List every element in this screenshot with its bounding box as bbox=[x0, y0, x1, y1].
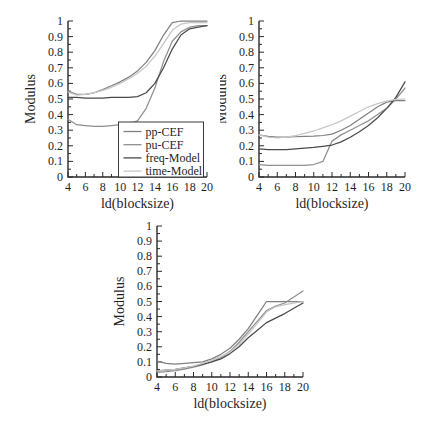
y-axis-label: Modulus bbox=[220, 74, 229, 124]
y-tick-label: 0 bbox=[57, 170, 63, 184]
x-tick-label: 20 bbox=[201, 180, 213, 194]
x-tick-label: 18 bbox=[279, 380, 291, 394]
y-ticks: 00.10.20.30.40.50.60.70.80.91 bbox=[239, 14, 264, 184]
y-axis-label: Modulus bbox=[112, 277, 127, 327]
y-tick-label: 1 bbox=[57, 14, 63, 28]
x-tick-label: 4 bbox=[65, 180, 71, 194]
x-tick-label: 12 bbox=[132, 180, 144, 194]
y-tick-label: 0.2 bbox=[137, 340, 152, 354]
x-tick-label: 12 bbox=[224, 380, 236, 394]
y-tick-label: 0.6 bbox=[137, 279, 152, 293]
y-tick-label: 0 bbox=[146, 370, 152, 384]
x-axis-label: ld(blocksize) bbox=[193, 396, 266, 412]
series-time-Model bbox=[157, 302, 303, 371]
x-tick-label: 14 bbox=[149, 180, 161, 194]
legend-label-pu-CEF: pu-CEF bbox=[146, 138, 184, 152]
y-tick-label: 0.9 bbox=[239, 30, 254, 44]
series-pu-CEF bbox=[259, 88, 405, 165]
y-tick-label: 0.9 bbox=[48, 30, 63, 44]
legend-label-time-Model: time-Model bbox=[146, 164, 203, 178]
x-tick-label: 14 bbox=[242, 380, 254, 394]
y-tick-label: 0.1 bbox=[137, 355, 152, 369]
y-tick-label: 0 bbox=[248, 170, 254, 184]
legend-label-pp-CEF: pp-CEF bbox=[146, 125, 184, 139]
y-tick-label: 0.2 bbox=[239, 139, 254, 153]
y-ticks: 00.10.20.30.40.50.60.70.80.91 bbox=[137, 219, 162, 384]
y-tick-label: 0.7 bbox=[48, 61, 63, 75]
y-tick-label: 1 bbox=[248, 14, 254, 28]
series-freq-Model bbox=[68, 26, 207, 99]
x-tick-label: 18 bbox=[184, 180, 196, 194]
x-tick-label: 8 bbox=[293, 180, 299, 194]
y-tick-label: 0.4 bbox=[137, 310, 152, 324]
y-tick-label: 0.1 bbox=[239, 154, 254, 168]
x-tick-label: 18 bbox=[381, 180, 393, 194]
chart-bottom: 00.10.20.30.40.50.60.70.80.9146810121416… bbox=[0, 214, 423, 428]
series-pp-CEF bbox=[259, 101, 405, 138]
y-axis-label: Modulus bbox=[23, 74, 38, 124]
chart-svg-top-right: 00.10.20.30.40.50.60.70.80.9146810121416… bbox=[220, 0, 423, 214]
legend-label-freq-Model: freq-Model bbox=[146, 151, 201, 165]
x-tick-label: 16 bbox=[363, 180, 375, 194]
x-tick-label: 16 bbox=[261, 380, 273, 394]
chart-top-left: 00.10.20.30.40.50.60.70.80.9146810121416… bbox=[0, 0, 220, 214]
x-tick-label: 8 bbox=[191, 380, 197, 394]
x-tick-label: 10 bbox=[206, 380, 218, 394]
y-tick-label: 0.8 bbox=[239, 45, 254, 59]
series-freq-Model bbox=[259, 82, 405, 150]
axes bbox=[259, 21, 405, 177]
x-tick-label: 4 bbox=[256, 180, 262, 194]
series-time-Model bbox=[259, 99, 405, 138]
y-tick-label: 0.3 bbox=[48, 123, 63, 137]
y-ticks: 00.10.20.30.40.50.60.70.80.91 bbox=[48, 14, 73, 184]
chart-svg-bottom: 00.10.20.30.40.50.60.70.80.9146810121416… bbox=[0, 214, 423, 428]
x-tick-label: 6 bbox=[82, 180, 88, 194]
x-tick-label: 6 bbox=[172, 380, 178, 394]
x-tick-label: 4 bbox=[154, 380, 160, 394]
x-tick-label: 8 bbox=[100, 180, 106, 194]
x-ticks: 468101214161820 bbox=[154, 372, 309, 394]
y-tick-label: 0.6 bbox=[239, 76, 254, 90]
y-tick-label: 1 bbox=[146, 219, 152, 233]
chart-top-right: 00.10.20.30.40.50.60.70.80.9146810121416… bbox=[220, 0, 423, 214]
series-pp-CEF bbox=[157, 302, 303, 365]
y-tick-label: 0.1 bbox=[48, 154, 63, 168]
series-pu-CEF bbox=[68, 26, 207, 127]
x-tick-label: 20 bbox=[297, 380, 309, 394]
x-tick-label: 6 bbox=[274, 180, 280, 194]
legend: pp-CEFpu-CEFfreq-Modeltime-Model bbox=[119, 122, 204, 178]
x-tick-label: 20 bbox=[399, 180, 411, 194]
series-time-Model bbox=[68, 23, 207, 96]
y-tick-label: 0.5 bbox=[239, 92, 254, 106]
y-tick-label: 0.3 bbox=[137, 325, 152, 339]
y-tick-label: 0.4 bbox=[239, 108, 254, 122]
x-tick-label: 14 bbox=[344, 180, 356, 194]
figure: 00.10.20.30.40.50.60.70.80.9146810121416… bbox=[0, 0, 423, 428]
x-axis-label: ld(blocksize) bbox=[295, 196, 368, 212]
y-tick-label: 0.5 bbox=[48, 92, 63, 106]
y-tick-label: 0.8 bbox=[48, 45, 63, 59]
y-tick-label: 0.7 bbox=[137, 264, 152, 278]
y-tick-label: 0.7 bbox=[239, 61, 254, 75]
y-tick-label: 0.2 bbox=[48, 139, 63, 153]
y-tick-label: 0.4 bbox=[48, 108, 63, 122]
x-tick-label: 10 bbox=[308, 180, 320, 194]
y-tick-label: 0.5 bbox=[137, 295, 152, 309]
chart-svg-top-left: 00.10.20.30.40.50.60.70.80.9146810121416… bbox=[0, 0, 220, 214]
x-ticks: 468101214161820 bbox=[256, 172, 411, 194]
series-freq-Model bbox=[157, 303, 303, 371]
y-tick-label: 0.8 bbox=[137, 249, 152, 263]
y-tick-label: 0.6 bbox=[48, 76, 63, 90]
y-tick-label: 0.9 bbox=[137, 234, 152, 248]
x-tick-label: 10 bbox=[114, 180, 126, 194]
x-tick-label: 16 bbox=[166, 180, 178, 194]
x-tick-label: 12 bbox=[326, 180, 338, 194]
x-axis-label: ld(blocksize) bbox=[101, 196, 174, 212]
series-pu-CEF bbox=[157, 291, 303, 373]
y-tick-label: 0.3 bbox=[239, 123, 254, 137]
